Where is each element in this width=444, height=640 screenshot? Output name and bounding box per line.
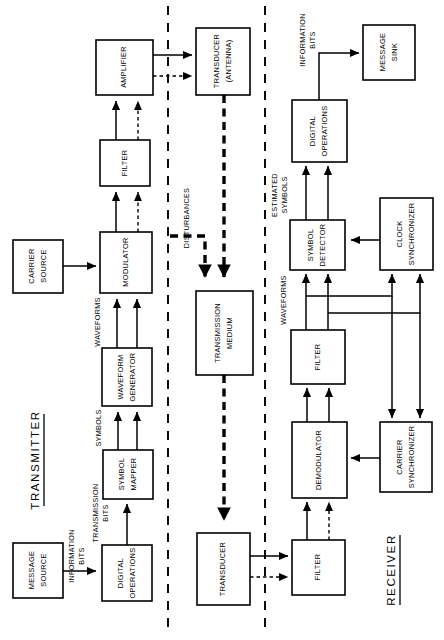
svg-text:SOURCE: SOURCE <box>39 553 48 586</box>
block-diagram-svg: CARRIER SOURCE MODULATOR FILTER AMPLIFIE… <box>0 0 444 640</box>
label-demodulator: DEMODULATOR <box>314 430 323 490</box>
svg-text:(ANTENNA): (ANTENNA) <box>224 40 233 83</box>
svg-text:CARRIER: CARRIER <box>27 248 36 283</box>
label-amplifier: AMPLIFIER <box>119 46 128 88</box>
signal-label-information-bits-rx: INFORMATION BITS <box>298 13 317 67</box>
signal-label-waveforms-tx: WAVEFORMS <box>93 297 102 346</box>
link-waveform-tap-to-clock-synchronizer-b <box>328 274 420 313</box>
svg-text:MEDIUM: MEDIUM <box>225 317 234 349</box>
svg-text:BITS: BITS <box>308 31 317 48</box>
svg-text:GENERATOR: GENERATOR <box>128 353 137 402</box>
svg-text:FILTER: FILTER <box>120 150 129 177</box>
svg-text:SOURCE: SOURCE <box>39 249 48 282</box>
svg-text:AMPLIFIER: AMPLIFIER <box>119 46 128 88</box>
svg-text:TRANSDUCER: TRANSDUCER <box>218 542 227 596</box>
svg-text:SYMBOL: SYMBOL <box>306 229 315 262</box>
svg-text:DETECTOR: DETECTOR <box>318 224 327 267</box>
signal-label-information-bits-tx: INFORMATION BITS <box>67 529 86 583</box>
svg-text:FILTER: FILTER <box>313 344 322 371</box>
svg-text:OPERATIONS: OPERATIONS <box>320 106 329 157</box>
label-filter-rx-2: FILTER <box>313 344 322 371</box>
label-filter-rx-1: FILTER <box>313 554 322 581</box>
signal-label-waveforms-rx: WAVEFORMS <box>279 275 288 324</box>
svg-text:WAVEFORMS: WAVEFORMS <box>93 297 102 346</box>
svg-text:TRANSMISSION: TRANSMISSION <box>213 303 222 363</box>
svg-text:DIGITAL: DIGITAL <box>308 116 317 146</box>
link-digital-operations-to-message-sink <box>319 53 359 100</box>
svg-text:FILTER: FILTER <box>313 554 322 581</box>
svg-text:SINK: SINK <box>390 43 399 61</box>
svg-text:BITS: BITS <box>77 547 86 564</box>
svg-text:ESTIMATED: ESTIMATED <box>270 173 279 217</box>
section-label-receiver: RECEIVER <box>385 534 400 606</box>
svg-text:INFORMATION: INFORMATION <box>298 13 307 67</box>
section-label-transmitter: TRANSMITTER <box>29 410 44 509</box>
svg-text:SYMBOL: SYMBOL <box>117 458 126 491</box>
svg-text:MESSAGE: MESSAGE <box>378 33 387 72</box>
diagram-canvas: CARRIER SOURCE MODULATOR FILTER AMPLIFIE… <box>0 0 444 640</box>
label-modulator: MODULATOR <box>121 237 130 286</box>
svg-text:CLOCK: CLOCK <box>395 221 404 248</box>
svg-text:DIGITAL: DIGITAL <box>116 558 125 588</box>
svg-text:CARRIER: CARRIER <box>395 439 404 474</box>
svg-text:WAVEFORMS: WAVEFORMS <box>279 275 288 324</box>
svg-text:TRANSMISSION: TRANSMISSION <box>91 484 100 543</box>
label-filter-tx: FILTER <box>120 150 129 177</box>
svg-text:TRANSDUCER: TRANSDUCER <box>212 34 221 88</box>
signal-label-estimated-symbols: ESTIMATED SYMBOLS <box>270 173 289 217</box>
svg-text:WAVEFORM: WAVEFORM <box>116 354 125 399</box>
svg-text:SYNCHRONIZER: SYNCHRONIZER <box>407 426 416 489</box>
svg-text:RECEIVER: RECEIVER <box>385 534 397 606</box>
link-waveform-tap-to-clock-synchronizer-a <box>306 274 392 296</box>
svg-text:OPERATIONS: OPERATIONS <box>128 548 137 599</box>
svg-text:SYNCHRONIZER: SYNCHRONIZER <box>407 203 416 266</box>
svg-text:SYMBOLS: SYMBOLS <box>94 409 103 446</box>
svg-text:DISTURBANCES: DISTURBANCES <box>182 188 191 249</box>
svg-text:MESSAGE: MESSAGE <box>27 551 36 590</box>
svg-text:MAPPER: MAPPER <box>129 457 138 490</box>
label-transducer-rx: TRANSDUCER <box>218 542 227 596</box>
signal-label-disturbances: DISTURBANCES <box>182 188 191 249</box>
svg-text:MODULATOR: MODULATOR <box>121 237 130 286</box>
svg-text:TRANSMITTER: TRANSMITTER <box>29 410 41 509</box>
svg-text:BITS: BITS <box>101 504 110 521</box>
svg-text:INFORMATION: INFORMATION <box>67 529 76 583</box>
svg-text:DEMODULATOR: DEMODULATOR <box>314 430 323 490</box>
svg-text:SYMBOLS: SYMBOLS <box>280 176 289 213</box>
signal-label-symbols: SYMBOLS <box>94 409 103 446</box>
